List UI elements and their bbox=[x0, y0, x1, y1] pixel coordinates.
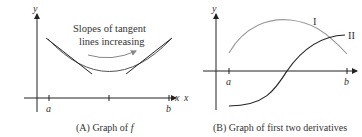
panel-b-tick-b-label: b bbox=[344, 76, 349, 87]
panel-b-curve-I bbox=[229, 20, 347, 54]
panel-a-tick-a-label: a bbox=[46, 103, 51, 114]
panel-b-curve-I-label: I bbox=[313, 16, 317, 27]
panel-a-tick-b-label: b bbox=[166, 103, 171, 114]
panel-a: y x a b Slopes of tangent lines increasi… bbox=[24, 3, 180, 134]
panel-b-x-label: x bbox=[183, 92, 189, 103]
panel-a-caption: (A) Graph of f bbox=[76, 122, 135, 134]
panel-b-curve-II-label: II bbox=[348, 30, 355, 41]
panel-a-annotation-line1: Slopes of tangent bbox=[73, 23, 146, 34]
panel-a-x-label: x bbox=[174, 92, 180, 103]
panel-a-y-label: y bbox=[32, 3, 38, 14]
panel-b-y-label: y bbox=[211, 3, 217, 14]
panel-a-annotation-arrow bbox=[88, 51, 136, 58]
figure: y x a b Slopes of tangent lines increasi… bbox=[0, 0, 362, 137]
panel-b-tick-a-label: a bbox=[226, 76, 231, 87]
panel-a-annotation-line2: lines increasing bbox=[79, 36, 145, 47]
panel-b-caption: (B) Graph of first two derivatives bbox=[213, 122, 347, 134]
panel-b: y x a b I II (B) Graph of first two deri… bbox=[183, 3, 357, 134]
